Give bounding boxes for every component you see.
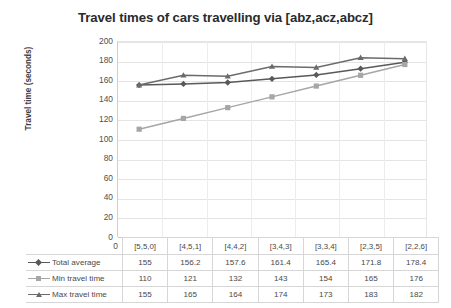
table-cell-0-1: 156.2 (168, 255, 213, 271)
y-axis-tick-labels: 200180160140120100806040200 (75, 41, 113, 237)
gridline-200 (118, 42, 426, 43)
y-axis-tick-100: 100 (77, 134, 113, 144)
table-column-header-6: [2,2,6] (394, 238, 439, 255)
gridline-160 (118, 81, 426, 82)
legend-marker-square-icon (28, 274, 50, 283)
data-table: 0 [5,5,0][4,5,1][4,4,2][3,4,3][3,3,4][2,… (26, 237, 439, 303)
category-gridline-6 (384, 42, 385, 237)
category-gridline-5 (339, 42, 340, 237)
table-cell-0-0: 155 (123, 255, 168, 271)
table-cell-1-5: 165 (348, 271, 393, 287)
table-header-row: 0 [5,5,0][4,5,1][4,4,2][3,4,3][3,3,4][2,… (26, 238, 439, 255)
table-cell-2-1: 165 (168, 287, 213, 303)
gridline-120 (118, 120, 426, 121)
table-cell-2-0: 155 (123, 287, 168, 303)
table-column-header-3: [3,4,3] (258, 238, 303, 255)
legend-entry-min-travel-time: Min travel time (26, 271, 123, 287)
legend-label: Max travel time (52, 290, 107, 299)
gridline-20 (118, 218, 426, 219)
gridline-40 (118, 199, 426, 200)
table-cell-1-4: 154 (303, 271, 348, 287)
table-body: Total average155156.2157.6161.4165.4171.… (26, 255, 439, 303)
legend-marker-diamond-icon (28, 258, 50, 267)
chart-title: Travel times of cars travelling via [abz… (0, 10, 451, 25)
table-cell-1-1: 121 (168, 271, 213, 287)
gridline-100 (118, 140, 426, 141)
table-cell-1-3: 143 (258, 271, 303, 287)
y-axis-tick-20: 20 (77, 212, 113, 222)
y-axis-zero-label: 0 (26, 238, 123, 255)
gridline-60 (118, 179, 426, 180)
table-cell-1-0: 110 (123, 271, 168, 287)
legend-entry-total-average: Total average (26, 255, 123, 271)
y-axis-tick-60: 60 (77, 173, 113, 183)
table-cell-2-2: 164 (213, 287, 258, 303)
table-cell-2-3: 174 (258, 287, 303, 303)
plot-area (117, 41, 427, 237)
table-cell-1-6: 176 (394, 271, 439, 287)
legend-entry-max-travel-time: Max travel time (26, 287, 123, 303)
table-row: Total average155156.2157.6161.4165.4171.… (26, 255, 439, 271)
chart-container: Travel times of cars travelling via [abz… (0, 0, 451, 308)
table-cell-2-6: 182 (394, 287, 439, 303)
table-cell-2-5: 183 (348, 287, 393, 303)
table-cell-0-4: 165.4 (303, 255, 348, 271)
legend-marker-triangle-icon (28, 290, 50, 299)
table-cell-0-2: 157.6 (213, 255, 258, 271)
table-cell-0-3: 161.4 (258, 255, 303, 271)
table-cell-2-4: 173 (303, 287, 348, 303)
y-axis-tick-180: 180 (77, 55, 113, 65)
y-axis-tick-160: 160 (77, 75, 113, 85)
category-gridline-1 (162, 42, 163, 237)
category-gridline-2 (207, 42, 208, 237)
table-row: Max travel time155165164174173183182 (26, 287, 439, 303)
table-cell-0-5: 171.8 (348, 255, 393, 271)
y-axis-tick-40: 40 (77, 192, 113, 202)
legend-label: Total average (52, 258, 101, 267)
y-axis-tick-140: 140 (77, 94, 113, 104)
y-axis-title: Travel time (seconds) (24, 9, 33, 169)
category-gridline-3 (251, 42, 252, 237)
y-axis-tick-120: 120 (77, 114, 113, 124)
gridline-180 (118, 62, 426, 63)
table-column-header-2: [4,4,2] (213, 238, 258, 255)
table-cell-1-2: 132 (213, 271, 258, 287)
legend-label: Min travel time (52, 274, 105, 283)
table-column-header-5: [2,3,5] (348, 238, 393, 255)
table-column-header-0: [5,5,0] (123, 238, 168, 255)
y-axis-tick-200: 200 (77, 36, 113, 46)
category-gridline-4 (295, 42, 296, 237)
gridline-80 (118, 160, 426, 161)
gridline-140 (118, 101, 426, 102)
table-row: Min travel time110121132143154165176 (26, 271, 439, 287)
table-cell-0-6: 178.4 (394, 255, 439, 271)
y-axis-tick-80: 80 (77, 153, 113, 163)
table-column-header-4: [3,3,4] (303, 238, 348, 255)
table-column-header-1: [4,5,1] (168, 238, 213, 255)
